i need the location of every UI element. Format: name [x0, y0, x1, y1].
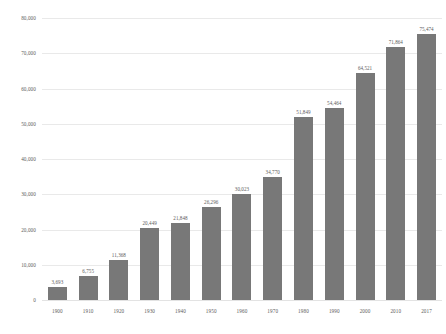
- y-axis: 010,00020,00030,00040,00050,00060,00070,…: [0, 18, 40, 300]
- y-axis-tick-label: 20,000: [21, 227, 36, 233]
- bar-slot: 71,864: [380, 18, 411, 300]
- bar[interactable]: [79, 276, 98, 300]
- bar-value-label: 51,849: [296, 109, 310, 115]
- bar-value-label: 11,368: [112, 252, 126, 258]
- bar[interactable]: [386, 47, 405, 300]
- x-axis-tick-label: 1940: [165, 308, 196, 322]
- bar-slot: 34,770: [257, 18, 288, 300]
- bar[interactable]: [232, 194, 251, 300]
- y-axis-tick-label: 10,000: [21, 262, 36, 268]
- x-axis-tick-label: 1960: [227, 308, 258, 322]
- y-axis-tick-label: 60,000: [21, 86, 36, 92]
- x-axis-tick-label: 1910: [73, 308, 104, 322]
- bar-value-label: 54,464: [327, 100, 341, 106]
- x-axis-tick-label: 1980: [288, 308, 319, 322]
- bar-value-label: 30,023: [235, 186, 249, 192]
- bar-slot: 3,693: [42, 18, 73, 300]
- bar-value-label: 64,521: [358, 65, 372, 71]
- bar-slot: 26,296: [196, 18, 227, 300]
- bar-slot: 6,755: [73, 18, 104, 300]
- x-axis-tick-label: 1930: [134, 308, 165, 322]
- x-axis-tick-label: 2000: [350, 308, 381, 322]
- bar-slot: 75,474: [411, 18, 442, 300]
- y-axis-tick-label: 30,000: [21, 191, 36, 197]
- x-axis-tick-label: 1970: [257, 308, 288, 322]
- bar-value-label: 3,693: [52, 279, 64, 285]
- bar-slot: 11,368: [104, 18, 135, 300]
- bar[interactable]: [109, 260, 128, 300]
- bar[interactable]: [202, 207, 221, 300]
- x-axis-tick-label: 2010: [380, 308, 411, 322]
- x-axis-tick-label: 1990: [319, 308, 350, 322]
- bar[interactable]: [325, 108, 344, 300]
- plot-area: 3,6936,75511,36820,44921,84826,29630,023…: [42, 18, 442, 300]
- bar-slot: 30,023: [227, 18, 258, 300]
- bar-value-label: 6,755: [82, 268, 94, 274]
- bar-value-label: 21,848: [173, 215, 187, 221]
- bar-slot: 21,848: [165, 18, 196, 300]
- y-axis-tick-label: 80,000: [21, 15, 36, 21]
- bar-slot: 51,849: [288, 18, 319, 300]
- x-axis: 1900191019201930194019501960197019801990…: [42, 308, 442, 322]
- bar[interactable]: [294, 117, 313, 300]
- bar-value-label: 75,474: [419, 26, 433, 32]
- bar-value-label: 20,449: [143, 220, 157, 226]
- bar[interactable]: [263, 177, 282, 300]
- gridline: [42, 300, 442, 301]
- bar[interactable]: [140, 228, 159, 300]
- y-axis-tick-label: 70,000: [21, 50, 36, 56]
- bar-value-label: 71,864: [389, 39, 403, 45]
- bar-chart: 010,00020,00030,00040,00050,00060,00070,…: [0, 0, 446, 334]
- bar-slot: 20,449: [134, 18, 165, 300]
- bar[interactable]: [417, 34, 436, 300]
- bar-slot: 64,521: [350, 18, 381, 300]
- y-axis-tick-label: 50,000: [21, 121, 36, 127]
- x-axis-tick-label: 1900: [42, 308, 73, 322]
- x-axis-tick-label: 2017: [411, 308, 442, 322]
- y-axis-tick-label: 40,000: [21, 156, 36, 162]
- bar[interactable]: [356, 73, 375, 300]
- x-axis-tick-label: 1950: [196, 308, 227, 322]
- bar-value-label: 34,770: [266, 169, 280, 175]
- x-axis-tick-label: 1920: [104, 308, 135, 322]
- bar[interactable]: [48, 287, 67, 300]
- bar-slot: 54,464: [319, 18, 350, 300]
- bar[interactable]: [171, 223, 190, 300]
- y-axis-tick-label: 0: [33, 297, 36, 303]
- bar-series: 3,6936,75511,36820,44921,84826,29630,023…: [42, 18, 442, 300]
- bar-value-label: 26,296: [204, 199, 218, 205]
